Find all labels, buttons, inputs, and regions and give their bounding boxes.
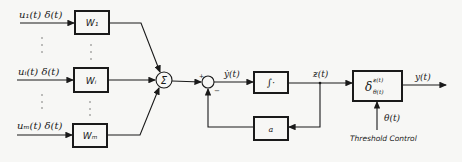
weight-label-1: W₁ <box>86 18 99 28</box>
input-label-m: uₘ(t) δ(t) <box>17 120 63 131</box>
input-label-i: uᵢ(t) δ(t) <box>18 66 59 77</box>
sum-to-junction-line <box>172 81 201 82</box>
minus-sign: − <box>214 87 220 95</box>
input-label-1: u₁(t) δ(t) <box>19 9 62 20</box>
integrator-symbol: ∫· <box>267 77 275 88</box>
threshold-sup: ƶ(t) <box>372 76 384 83</box>
weight-line-1 <box>109 23 160 72</box>
weight-line-m <box>107 88 159 135</box>
feedback-line-right <box>289 83 320 127</box>
feedback-gain-label: a <box>269 125 274 134</box>
state-label: ƶ(t) <box>312 69 329 79</box>
plus-sign: + <box>199 72 204 79</box>
weight-label-m: Wₘ <box>83 131 98 141</box>
output-label: y(t) <box>414 72 431 82</box>
threshold-delta: δ <box>365 80 372 94</box>
threshold-sub: θ(t) <box>373 88 384 95</box>
weight-label-i: Wᵢ <box>86 76 97 86</box>
threshold-caption: Threshold Control <box>350 134 418 143</box>
neuron-block-diagram: u₁(t) δ(t) uᵢ(t) δ(t) uₘ(t) δ(t) W₁ Wᵢ W… <box>0 0 462 162</box>
sigma-symbol: Σ <box>161 75 168 86</box>
derivative-label: ẏ(t) <box>223 69 240 79</box>
theta-label: θ(t) <box>384 113 401 123</box>
